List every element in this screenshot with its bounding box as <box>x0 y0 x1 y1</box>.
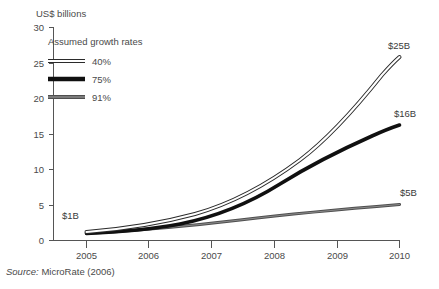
legend-item-75[interactable]: 75% <box>48 74 112 85</box>
y-tick-label-0: 0 <box>39 235 44 246</box>
source-prefix: Source: <box>6 266 39 277</box>
legend-label-40: 40% <box>92 56 112 67</box>
x-tick-label-2008: 2008 <box>264 250 285 261</box>
source-text: MicroRate (2006) <box>41 266 114 277</box>
x-tick-label-2005: 2005 <box>76 250 97 261</box>
legend-item-40[interactable]: 40% <box>48 56 112 67</box>
y-tick-label-20: 20 <box>33 93 44 104</box>
x-tick-label-2010: 2010 <box>389 250 410 261</box>
y-tick-label-10: 10 <box>33 164 44 175</box>
annotation-1b: $1B <box>62 210 79 221</box>
y-tick-label-25: 25 <box>33 58 44 69</box>
legend-title: Assumed growth rates <box>48 36 143 47</box>
legend-label-91: 91% <box>92 92 112 103</box>
chart-figure: 30 25 20 15 10 5 0 US$ billions 2005 200… <box>0 0 439 289</box>
y-axis-title: US$ billions <box>36 8 86 19</box>
legend-label-75: 75% <box>92 74 112 85</box>
x-tick-label-2006: 2006 <box>138 250 159 261</box>
x-tick-label-2009: 2009 <box>327 250 348 261</box>
x-tick-label-2007: 2007 <box>201 250 222 261</box>
y-tick-label-5: 5 <box>39 200 44 211</box>
series-line-75 <box>87 125 400 233</box>
source-note: Source: MicroRate (2006) <box>6 266 115 277</box>
y-tick-label-15: 15 <box>33 129 44 140</box>
annotation-16b: $16B <box>394 108 416 119</box>
annotation-25b: $25B <box>388 40 410 51</box>
annotation-5b: $5B <box>400 187 417 198</box>
legend-item-91[interactable]: 91% <box>48 92 112 103</box>
line-chart: 30 25 20 15 10 5 0 US$ billions 2005 200… <box>0 0 439 289</box>
legend: Assumed growth rates 40% 75% 91% <box>48 36 143 103</box>
x-axis-ticks <box>87 241 400 248</box>
y-tick-label-30: 30 <box>33 22 44 33</box>
